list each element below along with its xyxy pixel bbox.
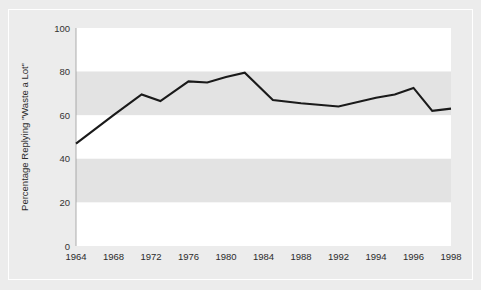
- band-80-100: [76, 28, 451, 72]
- y-tick-label-60: 60: [59, 110, 70, 121]
- x-tick-label-1972: 1972: [140, 251, 161, 262]
- x-tick-label-1968: 1968: [103, 251, 124, 262]
- band-40-60: [76, 115, 451, 159]
- x-tick-label-1998: 1998: [440, 251, 461, 262]
- y-tick-label-80: 80: [59, 66, 70, 77]
- x-tick-label-1980: 1980: [215, 251, 236, 262]
- band-0-20: [76, 202, 451, 246]
- line-chart: 100 80 60 40 20 0 Percentage Replying "W…: [9, 10, 472, 279]
- x-axis-tick-labels: 1964 1968 1972 1976 1980 1984 1988 1992 …: [65, 251, 461, 262]
- band-20-40: [76, 159, 451, 203]
- x-tick-label-1976: 1976: [178, 251, 199, 262]
- x-tick-label-1992: 1992: [328, 251, 349, 262]
- x-tick-label-1994: 1994: [365, 251, 386, 262]
- x-tick-label-1988: 1988: [290, 251, 311, 262]
- chart-card: 100 80 60 40 20 0 Percentage Replying "W…: [8, 9, 473, 280]
- y-axis-title: Percentage Replying "Waste a Lot": [19, 63, 30, 211]
- y-tick-label-0: 0: [65, 241, 70, 252]
- figure-container: 100 80 60 40 20 0 Percentage Replying "W…: [0, 0, 481, 290]
- x-tick-label-1996: 1996: [403, 251, 424, 262]
- y-tick-label-20: 20: [59, 197, 70, 208]
- y-axis-tick-labels: 100 80 60 40 20 0: [54, 23, 70, 252]
- x-tick-label-1984: 1984: [253, 251, 274, 262]
- y-tick-label-40: 40: [59, 153, 70, 164]
- y-tick-label-100: 100: [54, 23, 70, 34]
- plot-background-bands: [76, 28, 451, 246]
- x-tick-label-1964: 1964: [65, 251, 86, 262]
